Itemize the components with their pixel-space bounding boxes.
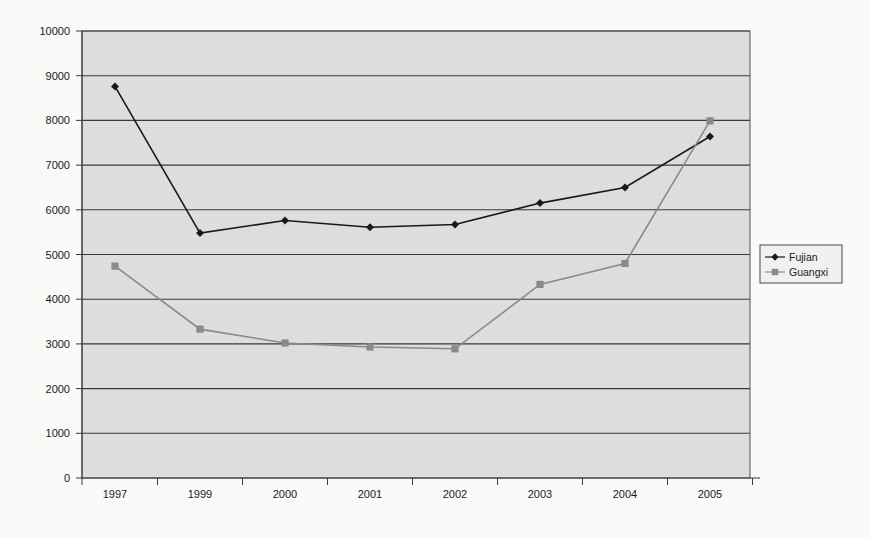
y-tick-label: 9000	[46, 70, 70, 82]
data-point-square	[621, 260, 628, 267]
data-point-square	[196, 326, 203, 333]
y-tick-label: 3000	[46, 338, 70, 350]
chart-canvas: 10000 9000 8000 7000 6000 5000 4000 3000…	[0, 0, 870, 538]
y-tick-label: 0	[64, 472, 70, 484]
data-point-square	[706, 117, 713, 124]
legend-label-guangxi: Guangxi	[789, 266, 828, 278]
y-tick-label: 1000	[46, 427, 70, 439]
line-chart: 10000 9000 8000 7000 6000 5000 4000 3000…	[0, 0, 870, 538]
y-axis-ticks: 10000 9000 8000 7000 6000 5000 4000 3000…	[39, 25, 82, 484]
x-tick-label-2003: 2003	[528, 488, 552, 500]
data-point-square	[366, 343, 373, 350]
x-axis-ticks: 1997 1999 2000 2001 2002 2003 2004 2005	[82, 478, 753, 500]
data-point-square	[281, 339, 288, 346]
y-tick-label: 6000	[46, 204, 70, 216]
y-tick-label: 2000	[46, 383, 70, 395]
x-tick-label-2004: 2004	[613, 488, 637, 500]
x-tick-label-2005: 2005	[698, 488, 722, 500]
square-marker-icon	[772, 269, 778, 275]
legend-label-fujian: Fujian	[789, 251, 818, 263]
data-point-square	[111, 263, 118, 270]
x-tick-label-2002: 2002	[443, 488, 467, 500]
data-point-square	[536, 281, 543, 288]
x-tick-label-2000: 2000	[273, 488, 297, 500]
y-tick-label: 10000	[39, 25, 70, 37]
data-point-square	[451, 345, 458, 352]
y-tick-label: 8000	[46, 114, 70, 126]
y-tick-label: 7000	[46, 159, 70, 171]
x-tick-label-1999: 1999	[188, 488, 212, 500]
y-tick-label: 4000	[46, 293, 70, 305]
legend: Fujian Guangxi	[760, 245, 842, 283]
x-tick-label-1997: 1997	[103, 488, 127, 500]
y-tick-label: 5000	[46, 249, 70, 261]
x-tick-label-2001: 2001	[358, 488, 382, 500]
